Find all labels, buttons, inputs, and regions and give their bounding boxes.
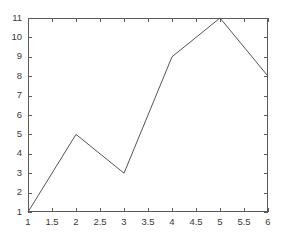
- y-tick-label: 4: [17, 147, 22, 158]
- x-tick-label: 3: [121, 216, 126, 227]
- y-tick-label: 8: [17, 70, 22, 81]
- x-tick-label: 5.5: [237, 216, 250, 227]
- x-tick-label: 1: [25, 216, 30, 227]
- x-tick-label: 4.5: [189, 216, 202, 227]
- y-tick-label: 2: [17, 186, 22, 197]
- y-tick-label: 11: [12, 12, 22, 23]
- y-tick-label: 9: [17, 50, 22, 61]
- x-tick-label: 5: [217, 216, 222, 227]
- x-tick-label: 6: [265, 216, 270, 227]
- y-tick-label: 7: [17, 89, 22, 100]
- x-tick-label: 4: [169, 216, 174, 227]
- x-tick-label: 3.5: [141, 216, 154, 227]
- y-tick-label: 5: [17, 128, 22, 139]
- y-tick-label: 3: [17, 167, 22, 178]
- x-tick-label: 2: [73, 216, 78, 227]
- y-tick-label: 10: [11, 31, 22, 42]
- x-tick-label: 1.5: [45, 216, 58, 227]
- line-chart: 11.522.533.544.555.56 1234567891011: [0, 0, 282, 237]
- chart-figure: 11.522.533.544.555.56 1234567891011: [0, 0, 282, 237]
- y-tick-label: 1: [17, 206, 22, 217]
- x-tick-label: 2.5: [93, 216, 106, 227]
- y-tick-label: 6: [17, 109, 22, 120]
